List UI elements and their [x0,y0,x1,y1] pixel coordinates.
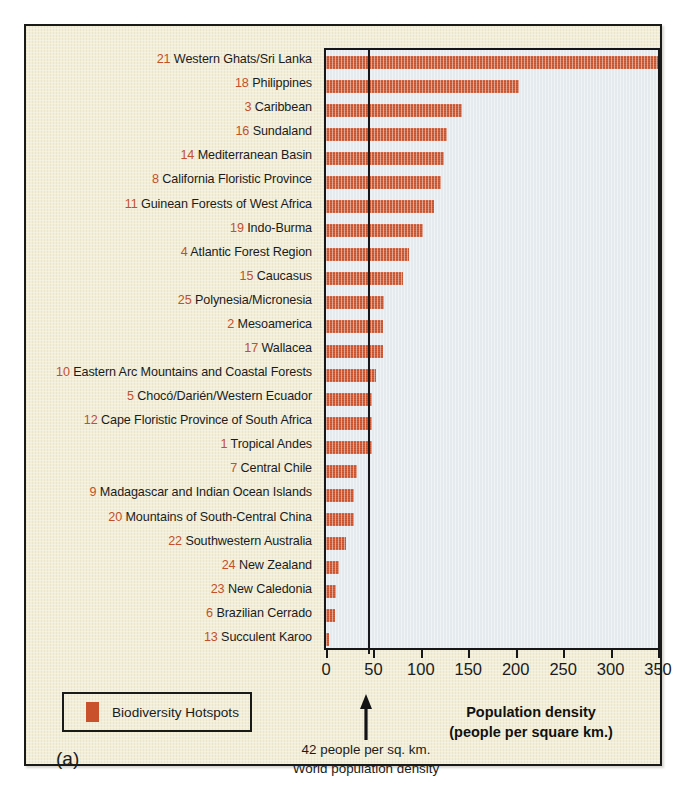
panel-letter: (a) [56,748,79,770]
x-axis-tick [658,650,660,658]
category-label: 20 Mountains of South-Central China [108,510,312,524]
world-density-annotation: 42 people per sq. km. World population d… [206,740,526,778]
category-label: 22 Southwestern Australia [168,534,312,548]
figure-panel: 21 Western Ghats/Sri Lanka18 Philippines… [24,24,662,766]
bar [326,417,372,430]
category-name: New Caledonia [224,582,312,596]
category-name: Tropical Andes [227,437,312,451]
x-axis-tick-label: 250 [549,660,577,679]
category-label: 24 New Zealand [222,558,312,572]
category-rank: 4 [181,245,188,259]
category-label: 8 California Floristic Province [152,172,312,186]
bar [326,320,383,333]
category-name: Eastern Arc Mountains and Coastal Forest… [70,365,312,379]
x-axis-tick [516,650,518,658]
category-name: Sundaland [249,124,312,138]
category-rank: 25 [178,293,192,307]
category-name: Caribbean [251,100,312,114]
category-rank: 5 [127,389,134,403]
bar [326,56,658,69]
bar [326,152,444,165]
category-label: 5 Chocó/Darién/Western Ecuador [127,389,312,403]
x-axis-tick [611,650,613,658]
category-label: 15 Caucasus [240,269,312,283]
x-axis-tick-label: 50 [364,660,382,679]
category-name: New Zealand [235,558,312,572]
bar [326,513,354,526]
category-label: 7 Central Chile [230,461,312,475]
category-rank: 6 [206,606,213,620]
category-name: Succulent Karoo [218,630,312,644]
category-label: 16 Sundaland [235,124,312,138]
category-label: 6 Brazilian Cerrado [206,606,312,620]
bar-series [326,50,658,648]
bar [326,393,372,406]
category-rank: 13 [204,630,218,644]
category-name: Western Ghats/Sri Lanka [170,52,312,66]
category-label: 25 Polynesia/Micronesia [178,293,312,307]
category-rank: 15 [240,269,254,283]
bar [326,176,441,189]
category-name: Indo-Burma [244,221,312,235]
bar [326,345,383,358]
category-label: 9 Madagascar and Indian Ocean Islands [90,485,312,499]
x-axis-tick-label: 100 [407,660,435,679]
world-density-reference-line [368,48,370,654]
category-name: Caucasus [253,269,312,283]
x-axis-ticks [324,650,660,660]
category-name: Philippines [249,76,312,90]
category-rank: 18 [235,76,249,90]
bar [326,465,357,478]
plot-area [324,48,660,650]
category-rank: 11 [125,197,138,211]
bar [326,272,403,285]
category-label: 14 Mediterranean Basin [180,148,312,162]
category-label: 11 Guinean Forests of West Africa [125,197,312,211]
annotation-line-1: 42 people per sq. km. [206,740,526,759]
category-name: Atlantic Forest Region [188,245,312,259]
category-rank: 10 [56,365,70,379]
x-axis-title-line1: Population density [406,702,656,722]
category-name: California Floristic Province [159,172,312,186]
category-rank: 22 [168,534,182,548]
category-label: 13 Succulent Karoo [204,630,312,644]
category-name: Guinean Forests of West Africa [138,197,312,211]
bar [326,609,335,622]
category-rank: 12 [84,413,98,427]
x-axis-tick-labels: 050100150200250300350 [294,660,688,682]
bar [326,224,423,237]
category-label: 12 Cape Floristic Province of South Afri… [84,413,312,427]
up-arrow-icon [359,694,373,740]
x-axis-title: Population density (people per square km… [406,702,656,742]
category-name: Brazilian Cerrado [213,606,312,620]
category-rank: 16 [235,124,249,138]
category-rank: 19 [230,221,244,235]
x-axis-tick [421,650,423,658]
bar [326,80,519,93]
bar [326,537,346,550]
category-rank: 20 [108,510,122,524]
category-label: 17 Wallacea [244,341,312,355]
category-label: 21 Western Ghats/Sri Lanka [157,52,312,66]
bar [326,633,329,646]
category-name: Central Chile [237,461,312,475]
category-name: Mediterranean Basin [194,148,312,162]
category-label: 18 Philippines [235,76,312,90]
x-axis-tick [326,650,328,658]
category-rank: 21 [157,52,171,66]
category-rank: 14 [180,148,194,162]
bar [326,489,354,502]
bar [326,104,462,117]
category-name: Southwestern Australia [182,534,312,548]
category-label: 19 Indo-Burma [230,221,312,235]
x-axis-tick-label: 350 [644,660,672,679]
category-rank: 17 [244,341,258,355]
x-axis-tick-label: 300 [597,660,625,679]
x-axis-tick-label: 0 [321,660,330,679]
category-rank: 23 [211,582,225,596]
category-label: 2 Mesoamerica [227,317,312,331]
category-label: 23 New Caledonia [211,582,312,596]
bar [326,561,339,574]
category-name: Mesoamerica [234,317,312,331]
bar [326,296,384,309]
